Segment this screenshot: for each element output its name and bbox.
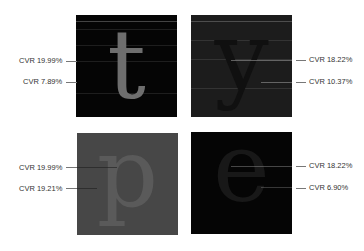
- inner-leader-line: [231, 60, 292, 61]
- cvr-label: CVR 18.22%: [309, 162, 352, 170]
- leader-line: [296, 60, 306, 61]
- letter-glyph: e: [191, 132, 292, 216]
- leader-line: [66, 167, 77, 168]
- cvr-label: CVR 19.99%: [19, 57, 62, 65]
- panel-top-left: t: [76, 15, 177, 117]
- leader-line: [296, 188, 306, 189]
- cvr-label: CVR 18.22%: [309, 56, 352, 64]
- letter-glyph: t: [76, 17, 177, 113]
- inner-leader-line: [261, 187, 292, 188]
- leader-line: [66, 82, 77, 83]
- inner-leader-line: [77, 167, 117, 168]
- cvr-label: CVR 7.89%: [23, 78, 62, 86]
- inner-leader-line: [77, 188, 97, 189]
- leader-line: [66, 188, 77, 189]
- panel-bottom-left: p: [77, 133, 178, 235]
- cvr-label: CVR 10.37%: [309, 78, 352, 86]
- inner-leader-line: [231, 166, 292, 167]
- leader-line: [296, 166, 306, 167]
- cvr-label: CVR 19.21%: [19, 185, 62, 193]
- letter-glyph: p: [77, 133, 178, 221]
- cvr-label: CVR 19.99%: [19, 164, 62, 172]
- cvr-label: CVR 6.90%: [309, 184, 348, 192]
- inner-leader-line: [261, 82, 292, 83]
- panel-top-right: y: [191, 15, 292, 117]
- leader-line: [296, 82, 306, 83]
- panel-bottom-right: e: [191, 132, 292, 234]
- leader-line: [66, 61, 77, 62]
